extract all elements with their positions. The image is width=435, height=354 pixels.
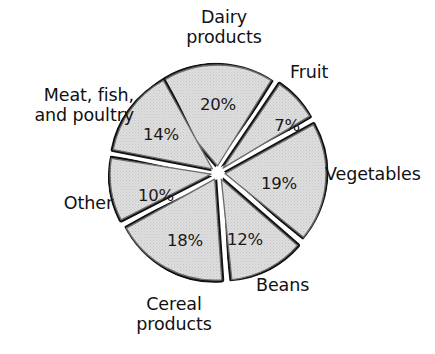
slice-label-dairy-products: Dairyproducts — [186, 8, 262, 47]
slice-label-meat-fish-poultry-line2: and poultry — [34, 105, 134, 125]
slice-value-fruit: 7% — [274, 118, 300, 135]
slice-value-other: 10% — [138, 188, 174, 205]
slice-value-cereal-products: 18% — [167, 233, 203, 250]
slice-value-vegetables: 19% — [261, 176, 297, 193]
slice-value-dairy-products: 20% — [200, 97, 236, 114]
slice-label-cereal-products-line1: Cereal — [146, 294, 202, 314]
slice-label-beans: Beans — [256, 276, 309, 296]
slice-value-meat-fish-poultry: 14% — [143, 127, 179, 144]
slice-label-dairy-products-line2: products — [186, 27, 262, 47]
slice-value-beans: 12% — [227, 232, 263, 249]
pie-chart-figure: 20% 7% 19% 12% 18% 10% 14% Dairyproducts… — [0, 0, 435, 354]
slice-label-other: Other — [64, 194, 113, 214]
slice-label-meat-fish-poultry-line1: Meat, fish, — [44, 85, 134, 105]
slice-label-cereal-products: Cerealproducts — [136, 295, 212, 334]
slice-label-fruit: Fruit — [290, 63, 328, 83]
slice-label-meat-fish-poultry: Meat, fish,and poultry — [34, 86, 134, 125]
slice-label-vegetables: Vegetables — [325, 165, 421, 185]
slice-label-cereal-products-line2: products — [136, 314, 212, 334]
slice-label-dairy-products-line1: Dairy — [201, 7, 247, 27]
